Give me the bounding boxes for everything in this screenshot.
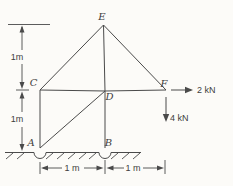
ground-hatch-1 <box>17 153 24 159</box>
dimension-arrow-7 <box>157 166 164 171</box>
truss-diagram-svg: ECDFAB2 kN4 kN1m1m1 m1 m <box>0 0 233 186</box>
dimension-label-2: 1 m <box>64 163 79 173</box>
member-A-D <box>40 91 105 148</box>
ground-hatch-4 <box>68 153 75 159</box>
force-label-0: 2 kN <box>197 85 216 95</box>
node-label-F: F <box>160 78 169 89</box>
node-label-C: C <box>30 77 38 88</box>
member-D-F <box>105 90 166 91</box>
member-C-D <box>40 90 105 91</box>
truss-figure: ECDFAB2 kN4 kN1m1m1 m1 m <box>0 0 233 186</box>
dimension-arrow-0 <box>20 26 25 33</box>
dimension-arrow-3 <box>20 144 25 151</box>
member-E-C <box>40 25 104 90</box>
dimension-arrow-6 <box>107 166 114 171</box>
dimension-label-0: 1m <box>11 52 24 62</box>
ground-hatch-9 <box>133 153 140 159</box>
node-label-E: E <box>97 11 106 22</box>
ground-hatch-0 <box>6 153 13 159</box>
support-notch-A <box>34 153 46 159</box>
dimension-arrow-4 <box>41 166 48 171</box>
member-E-F <box>104 25 167 90</box>
node-label-B: B <box>104 137 112 148</box>
node-label-A: A <box>26 137 34 148</box>
dimension-label-1: 1m <box>11 114 24 124</box>
support-notch-B <box>99 153 111 159</box>
dimension-arrow-1 <box>20 82 25 89</box>
ground-hatch-8 <box>122 153 129 159</box>
ground-hatch-7 <box>111 153 118 159</box>
ground-hatch-5 <box>79 153 86 159</box>
force-label-1: 4 kN <box>170 113 189 123</box>
member-E-D <box>104 25 106 91</box>
ground-hatch-3 <box>57 153 64 159</box>
ground-hatch-6 <box>89 153 96 159</box>
dimension-arrow-2 <box>20 92 25 99</box>
force-arrow-head-1 <box>163 114 169 122</box>
dimension-label-3: 1 m <box>125 163 140 173</box>
dimension-arrow-5 <box>97 166 104 171</box>
node-label-D: D <box>104 91 113 102</box>
force-arrow-head-0 <box>185 87 193 93</box>
ground-hatch-2 <box>46 153 53 159</box>
